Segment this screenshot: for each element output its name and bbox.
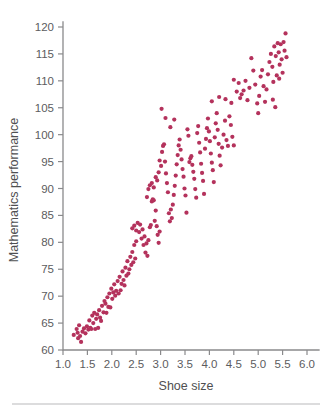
data-point bbox=[96, 326, 100, 330]
data-point bbox=[168, 125, 172, 129]
data-point bbox=[155, 178, 159, 182]
data-point bbox=[273, 105, 277, 109]
data-point bbox=[179, 148, 183, 152]
data-point bbox=[206, 116, 210, 120]
data-point bbox=[232, 78, 236, 82]
data-point bbox=[103, 302, 107, 306]
y-tick-label: 115 bbox=[36, 48, 54, 60]
data-point bbox=[229, 123, 233, 127]
data-point bbox=[215, 111, 219, 115]
data-point bbox=[87, 318, 91, 322]
data-point bbox=[125, 259, 129, 263]
data-point bbox=[173, 184, 177, 188]
data-point bbox=[196, 124, 200, 128]
x-tick-label: 3.5 bbox=[177, 358, 193, 370]
data-point bbox=[216, 128, 220, 132]
data-point bbox=[202, 192, 206, 196]
data-point bbox=[171, 203, 175, 207]
x-tick-label: 1.0 bbox=[55, 358, 71, 370]
data-point bbox=[72, 333, 76, 337]
data-point bbox=[197, 141, 201, 145]
scatter-plot-svg: 1.01.52.02.53.03.54.04.55.05.56.0 606570… bbox=[0, 0, 332, 410]
data-point bbox=[149, 223, 153, 227]
data-point bbox=[257, 94, 261, 98]
data-point bbox=[116, 279, 120, 283]
data-point bbox=[122, 283, 126, 287]
data-point bbox=[198, 150, 202, 154]
data-point bbox=[200, 171, 204, 175]
data-point bbox=[223, 119, 227, 123]
data-point bbox=[123, 266, 127, 270]
data-point bbox=[221, 133, 225, 137]
data-point bbox=[235, 90, 239, 94]
data-point bbox=[177, 143, 181, 147]
data-point bbox=[159, 107, 163, 111]
data-point bbox=[189, 154, 193, 158]
data-point bbox=[110, 297, 114, 301]
data-point bbox=[217, 142, 221, 146]
data-point bbox=[253, 83, 257, 87]
data-point bbox=[167, 211, 171, 215]
data-point bbox=[137, 230, 141, 234]
data-point bbox=[280, 57, 284, 61]
data-point bbox=[184, 211, 188, 215]
data-point bbox=[138, 222, 142, 226]
x-tick-label: 2.0 bbox=[104, 358, 120, 370]
data-point bbox=[193, 187, 197, 191]
data-point bbox=[281, 40, 285, 44]
scatter-plot-figure: 1.01.52.02.53.03.54.04.55.05.56.0 606570… bbox=[0, 0, 332, 410]
data-point bbox=[179, 157, 183, 161]
data-point bbox=[178, 137, 182, 141]
data-point bbox=[284, 55, 288, 59]
data-point bbox=[176, 153, 180, 157]
y-tick-label: 85 bbox=[41, 209, 54, 221]
y-axis-tick-marks bbox=[58, 27, 63, 350]
data-point bbox=[128, 255, 132, 259]
data-point bbox=[232, 143, 236, 147]
y-tick-label: 80 bbox=[41, 236, 54, 248]
data-point bbox=[164, 171, 168, 175]
data-point bbox=[266, 72, 270, 76]
data-point bbox=[150, 181, 154, 185]
data-point bbox=[241, 88, 245, 92]
x-axis-title: Shoe size bbox=[159, 379, 214, 393]
data-point bbox=[185, 127, 189, 131]
x-tick-label: 4.5 bbox=[226, 358, 242, 370]
data-point bbox=[204, 137, 208, 141]
data-point bbox=[132, 224, 136, 228]
data-point bbox=[256, 111, 260, 115]
data-point bbox=[270, 65, 274, 69]
data-point bbox=[194, 196, 198, 200]
data-point bbox=[163, 116, 167, 120]
data-point bbox=[159, 164, 163, 168]
data-point bbox=[142, 234, 146, 238]
data-point bbox=[109, 287, 113, 291]
data-point bbox=[155, 224, 159, 228]
data-point bbox=[224, 138, 228, 142]
data-point bbox=[152, 198, 156, 202]
data-point bbox=[282, 49, 286, 53]
data-point bbox=[157, 241, 161, 245]
data-point bbox=[208, 139, 212, 143]
x-tick-label: 3.0 bbox=[153, 358, 169, 370]
data-point bbox=[269, 52, 273, 56]
data-point bbox=[134, 239, 138, 243]
data-point bbox=[240, 92, 244, 96]
data-point bbox=[153, 219, 157, 223]
data-point bbox=[274, 54, 278, 58]
data-point bbox=[174, 173, 178, 177]
data-point bbox=[281, 71, 285, 75]
data-point bbox=[211, 168, 215, 172]
data-point bbox=[212, 180, 216, 184]
data-point bbox=[238, 96, 242, 100]
data-point bbox=[158, 229, 162, 233]
data-point bbox=[146, 238, 150, 242]
data-point bbox=[255, 101, 259, 105]
data-point bbox=[91, 321, 95, 325]
data-point bbox=[192, 177, 196, 181]
data-point bbox=[207, 129, 211, 133]
x-tick-label: 5.5 bbox=[275, 358, 291, 370]
data-point bbox=[180, 167, 184, 171]
x-tick-label: 6.0 bbox=[299, 358, 315, 370]
data-point bbox=[190, 163, 194, 167]
